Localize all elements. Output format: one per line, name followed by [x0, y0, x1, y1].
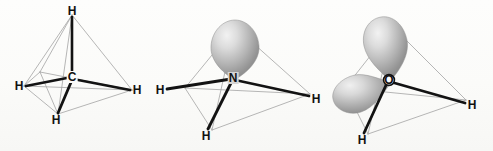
water-atom-label-h-right: H [468, 99, 477, 111]
methane-central-atom-label-c: C [67, 71, 78, 83]
water-atom-label-h-front: H [358, 134, 367, 146]
molecular-geometry-figure: H H H H C H H H N H H O [0, 0, 493, 151]
ammonia-central-atom-label-n: N [228, 72, 239, 84]
lone-pair-lobe-up [363, 17, 407, 80]
methane-tetrahedron-cage [24, 15, 132, 114]
molecule-methane [24, 15, 132, 114]
methane-bonds [26, 17, 130, 113]
methane-atom-label-h-left: H [15, 80, 24, 92]
water-lone-pair-lobes [333, 17, 408, 113]
ammonia-atom-label-h-left: H [156, 84, 165, 96]
molecule-ammonia [167, 20, 310, 130]
methane-atom-label-h-apex: H [68, 5, 77, 17]
ammonia-atom-label-h-front: H [202, 130, 211, 142]
water-central-atom-label-o: O [384, 74, 393, 86]
bond-n-h-right [235, 80, 309, 96]
bond-n-h-front [208, 81, 232, 129]
ammonia-atom-label-h-right: H [312, 93, 321, 105]
molecule-water [333, 17, 466, 134]
methane-atom-label-h-front: H [52, 114, 61, 126]
ammonia-bonds [167, 79, 309, 129]
bond-o-h-right [391, 82, 465, 103]
methane-atom-label-h-right: H [133, 84, 142, 96]
